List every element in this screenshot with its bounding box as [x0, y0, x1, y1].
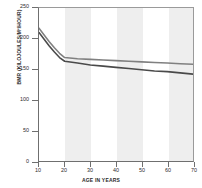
x-axis-tick-label: 30 — [80, 168, 100, 173]
y-axis-tick-label: 200 — [20, 35, 29, 40]
y-axis-tick — [32, 100, 38, 101]
y-axis-tick-label: 0 — [26, 159, 29, 164]
y-axis-tick-label: 250 — [20, 4, 29, 9]
x-axis-tick-label: 70 — [184, 168, 202, 173]
x-axis-tick-label: 10 — [28, 168, 48, 173]
y-axis-title: BMR (KILOJOULES/M²/HOUR) — [16, 0, 22, 107]
curves-svg — [39, 8, 193, 161]
y-axis-tick-label: 150 — [20, 66, 29, 71]
x-axis-tick-label: 50 — [132, 168, 152, 173]
y-axis-tick — [32, 69, 38, 70]
x-axis-title: AGE IN YEARS — [0, 177, 202, 183]
y-axis-tick — [32, 7, 38, 8]
bmr-age-chart: BMR (KILOJOULES/M²/HOUR) 050100150200250… — [0, 0, 202, 188]
x-axis-tick-label: 20 — [54, 168, 74, 173]
series-lower-curve — [39, 32, 193, 74]
x-axis-tick-label: 60 — [158, 168, 178, 173]
curves-layer — [39, 8, 193, 161]
y-axis-tick-label: 100 — [20, 97, 29, 102]
x-axis-tick-label: 40 — [106, 168, 126, 173]
y-axis-tick-label: 50 — [23, 128, 29, 133]
y-axis-tick — [32, 38, 38, 39]
y-axis-tick — [32, 131, 38, 132]
plot-area — [38, 7, 194, 162]
